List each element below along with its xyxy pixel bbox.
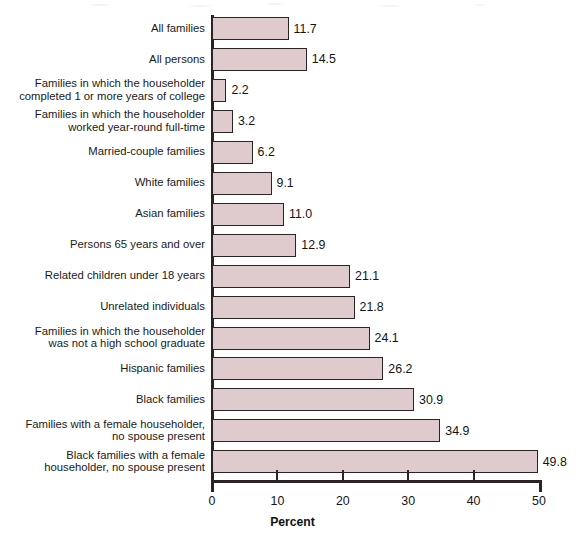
category-label: Families in which the householder was no…	[5, 325, 205, 351]
bar-value-label: 9.1	[277, 177, 294, 189]
category-label: Hispanic families	[5, 362, 205, 375]
x-axis-tick	[407, 470, 409, 481]
category-label: White families	[5, 176, 205, 189]
category-label: Asian families	[5, 207, 205, 220]
bar-value-label: 11.0	[289, 208, 312, 220]
category-label: All persons	[5, 53, 205, 66]
category-label: Families in which the householder worked…	[5, 108, 205, 134]
bar	[212, 357, 383, 380]
bar-value-label: 30.9	[419, 394, 443, 406]
bar	[212, 234, 296, 257]
bar	[212, 388, 414, 411]
x-axis-tick-label: 40	[467, 495, 481, 507]
category-label: Families in which the householder comple…	[5, 77, 205, 103]
bar-value-label: 3.2	[238, 115, 255, 127]
x-axis-tick-label: 50	[532, 495, 546, 507]
bar	[212, 17, 289, 40]
bar-value-label: 49.8	[543, 456, 567, 468]
bar	[212, 172, 272, 195]
bar-value-label: 2.2	[231, 84, 248, 96]
bar	[212, 203, 284, 226]
bar	[212, 48, 307, 71]
x-axis-tick-label: 30	[401, 495, 415, 507]
category-label: Married-couple families	[5, 145, 205, 158]
category-label: Black families with a female householder…	[5, 449, 205, 475]
bar-value-label: 12.9	[301, 239, 325, 251]
x-axis-tick	[342, 470, 344, 481]
bar	[212, 450, 538, 473]
bar	[212, 327, 370, 350]
bar-value-label: 26.2	[388, 363, 412, 375]
x-axis-tick-label: 10	[270, 495, 284, 507]
bar	[212, 419, 440, 442]
bar-value-label: 14.5	[312, 53, 336, 65]
category-label: Black families	[5, 393, 205, 406]
category-label: All families	[5, 22, 205, 35]
poverty-rate-bar-chart: All families11.7All persons14.5Families …	[0, 0, 585, 542]
plot-area: All families11.7All persons14.5Families …	[0, 0, 585, 542]
bar-value-label: 21.8	[360, 301, 384, 313]
x-axis-tick	[276, 470, 278, 481]
x-axis-tick	[473, 470, 475, 481]
category-label: Families with a female householder, no s…	[5, 418, 205, 444]
bar	[212, 141, 253, 164]
bar	[212, 296, 355, 319]
bar	[212, 110, 233, 133]
x-axis-title: Percent	[0, 515, 585, 529]
bar-value-label: 21.1	[355, 270, 379, 282]
bar-value-label: 24.1	[375, 332, 399, 344]
bar-value-label: 6.2	[258, 146, 275, 158]
x-axis-end-caps	[211, 480, 542, 492]
bar-value-label: 11.7	[294, 23, 317, 35]
category-label: Related children under 18 years	[5, 269, 205, 282]
category-label: Persons 65 years and over	[5, 238, 205, 251]
bar	[212, 265, 350, 288]
category-label: Unrelated individuals	[5, 300, 205, 313]
x-axis-tick-label: 20	[336, 495, 350, 507]
bar-value-label: 34.9	[445, 425, 469, 437]
x-axis-tick-label: 0	[209, 495, 216, 507]
bar	[212, 79, 226, 102]
